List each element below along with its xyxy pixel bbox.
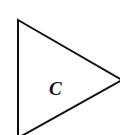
triangle-shape	[0, 0, 120, 135]
triangle-label: C	[49, 79, 62, 98]
